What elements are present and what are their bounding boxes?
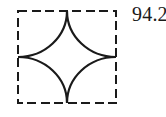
four-quarter-arcs-star	[18, 11, 116, 103]
figure-canvas: 94.2	[0, 0, 166, 117]
value-label: 94.2	[132, 3, 166, 25]
